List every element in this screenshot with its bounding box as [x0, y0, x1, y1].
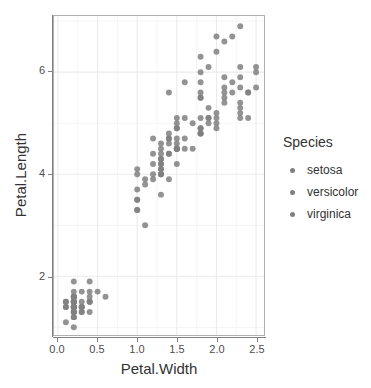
data-point — [158, 146, 164, 152]
data-point — [237, 105, 243, 111]
data-point — [229, 79, 235, 85]
legend-items: setosaversicolorvirginica — [283, 159, 358, 225]
data-point — [87, 278, 93, 284]
data-point — [150, 171, 156, 177]
x-tick-mark — [137, 338, 138, 342]
y-axis-title: Petal.Length — [12, 133, 29, 217]
data-point — [190, 146, 196, 152]
data-point — [206, 120, 212, 126]
data-point — [71, 299, 77, 305]
data-point — [134, 197, 140, 203]
data-point — [166, 176, 172, 182]
legend-dot-icon — [290, 168, 295, 173]
data-point — [134, 166, 140, 172]
data-point — [221, 90, 227, 96]
x-axis-title: Petal.Width — [53, 360, 265, 377]
data-point — [63, 319, 69, 325]
legend-item-setosa[interactable]: setosa — [283, 159, 358, 181]
data-point — [150, 176, 156, 182]
y-tick-label: 2 — [39, 271, 45, 282]
x-tick-label: 1.5 — [169, 344, 184, 355]
data-point — [150, 136, 156, 142]
data-point — [134, 207, 140, 213]
plot-panel — [53, 15, 265, 336]
data-point — [87, 299, 93, 305]
data-point — [198, 90, 204, 96]
x-tick-mark — [257, 338, 258, 342]
data-point — [198, 79, 204, 85]
data-point — [71, 309, 77, 315]
data-point — [174, 125, 180, 131]
y-tick-label: 4 — [39, 168, 45, 179]
data-point — [71, 278, 77, 284]
data-point — [71, 294, 77, 300]
x-axis-line — [53, 337, 266, 338]
data-point — [198, 95, 204, 101]
data-point — [71, 324, 77, 330]
data-point — [213, 49, 219, 55]
data-point — [158, 156, 164, 162]
data-point — [150, 161, 156, 167]
data-point — [182, 136, 188, 142]
y-tick-label: 6 — [39, 65, 45, 76]
data-point — [221, 100, 227, 106]
data-point — [142, 222, 148, 228]
data-point — [158, 192, 164, 198]
x-tick-mark — [217, 338, 218, 342]
data-point — [79, 289, 85, 295]
data-points-layer — [63, 23, 259, 330]
y-tick-mark — [48, 174, 52, 175]
data-point — [190, 120, 196, 126]
data-point — [166, 130, 172, 136]
data-point — [87, 289, 93, 295]
data-point — [87, 294, 93, 300]
x-tick-label: 0.5 — [89, 344, 104, 355]
data-point — [198, 54, 204, 60]
data-point — [198, 130, 204, 136]
scatter-plot-figure: 0.00.51.01.52.02.5246 Petal.Width Petal.… — [0, 0, 371, 388]
legend-dot-icon — [290, 190, 295, 195]
plot-area-svg — [54, 16, 264, 335]
x-tick-mark — [97, 338, 98, 342]
data-point — [79, 304, 85, 310]
data-point — [142, 181, 148, 187]
data-point — [213, 115, 219, 121]
data-point — [253, 69, 259, 75]
data-point — [134, 171, 140, 177]
x-tick-label: 2.5 — [249, 344, 264, 355]
data-point — [237, 115, 243, 121]
x-tick-label: 1.0 — [129, 344, 144, 355]
data-point — [63, 304, 69, 310]
data-point — [213, 33, 219, 39]
data-point — [79, 309, 85, 315]
x-tick-label: 0.0 — [49, 344, 64, 355]
y-axis-line — [52, 15, 53, 337]
data-point — [166, 141, 172, 147]
legend-dot-icon — [290, 212, 295, 217]
data-point — [174, 146, 180, 152]
data-point — [174, 115, 180, 121]
data-point — [206, 64, 212, 70]
data-point — [71, 314, 77, 320]
data-point — [198, 125, 204, 131]
data-point — [166, 136, 172, 142]
legend-item-label: virginica — [307, 207, 351, 221]
data-point — [206, 105, 212, 111]
data-point — [158, 151, 164, 157]
legend: Species setosaversicolorvirginica — [283, 134, 358, 225]
data-point — [95, 289, 101, 295]
data-point — [182, 115, 188, 121]
data-point — [206, 115, 212, 121]
data-point — [182, 79, 188, 85]
legend-item-virginica[interactable]: virginica — [283, 203, 358, 225]
data-point — [158, 161, 164, 167]
data-point — [174, 141, 180, 147]
legend-item-versicolor[interactable]: versicolor — [283, 181, 358, 203]
data-point — [182, 146, 188, 152]
data-point — [237, 23, 243, 29]
data-point — [134, 187, 140, 193]
y-tick-mark — [48, 277, 52, 278]
data-point — [237, 110, 243, 116]
data-point — [198, 115, 204, 121]
legend-item-label: setosa — [307, 163, 342, 177]
